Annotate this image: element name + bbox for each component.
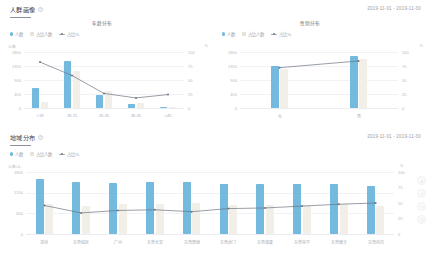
y2-axis-tick-label: 0 — [402, 106, 404, 111]
help-icon[interactable]: ? — [38, 7, 43, 12]
region-distribution-panel: 地域分布 ? 2019-11-01 - 2019-11-30 人数 占比人数 占… — [0, 128, 429, 257]
y2-axis-caption: % — [400, 164, 403, 168]
y-axis-caption: 人数 — [8, 44, 16, 49]
legend-region-chart: 人数 占比人数 占比% — [10, 151, 79, 157]
share-icon[interactable] — [417, 189, 426, 198]
legend-line-icon — [59, 34, 65, 35]
legend-item-ratio-count[interactable]: 占比人数 — [30, 151, 52, 157]
help-circle-icon[interactable] — [417, 215, 426, 224]
date-range-bottom[interactable]: 2019-11-01 - 2019-11-30 — [367, 134, 421, 139]
y2-axis-tick-label: 50 — [398, 201, 402, 206]
legend-label: 占比人数 — [248, 31, 264, 37]
y-axis-tick-label: 1350 — [219, 64, 237, 69]
title-underline — [10, 17, 31, 18]
dashboard-page: 人群画像 ? 2019-11-01 - 2019-11-30 年龄分布 性别分布… — [0, 0, 429, 257]
gender-distribution-chart[interactable]: % 1800135090045001007550250女男 — [214, 44, 429, 126]
legend-dot-icon — [222, 32, 225, 35]
y2-axis-tick-label: 50 — [402, 78, 406, 83]
y-axis-tick-label: 450 — [219, 92, 237, 97]
legend-item-ratio-count[interactable]: 占比人数 — [242, 31, 264, 37]
comment-icon[interactable] — [417, 202, 426, 211]
legend-label: 占比人数 — [36, 31, 52, 37]
x-axis-tick-label: 男 — [357, 113, 361, 119]
percent-line-series — [26, 172, 394, 234]
legend-label: 人数 — [227, 31, 235, 37]
y-axis-tick-label: 1200 — [5, 190, 23, 195]
legend-item-ratio-count[interactable]: 占比人数 — [30, 31, 52, 37]
x-axis-tick-label: 东莞城区 — [73, 239, 89, 245]
axis-baseline — [26, 234, 394, 235]
y2-axis-tick-label: 75 — [398, 185, 402, 190]
x-axis-tick-label: 18-25 — [67, 113, 77, 118]
y2-axis-tick-label: 100 — [398, 170, 405, 175]
x-axis-tick-label: 东莞厚街 — [184, 239, 200, 245]
y2-axis-tick-label: 50 — [188, 78, 192, 83]
legend-bar-icon — [30, 152, 34, 155]
y-axis-tick-label: 1800 — [3, 50, 21, 55]
legend-line-icon — [59, 154, 65, 155]
legend-item-percent[interactable]: 占比% — [59, 31, 79, 37]
gender-chart-title: 性别分布 — [300, 20, 320, 26]
title-underline — [10, 145, 31, 146]
y2-axis-tick-label: 0 — [188, 106, 190, 111]
y-axis-tick-label: 0 — [5, 232, 23, 237]
legend-label: 占比% — [279, 31, 291, 37]
y-axis-tick-label: 1800 — [5, 170, 23, 175]
legend-item-percent[interactable]: 占比% — [271, 31, 291, 37]
legend-label: 人数 — [15, 31, 23, 37]
y-axis-tick-label: 0 — [219, 106, 237, 111]
y2-axis-caption: % — [420, 44, 423, 48]
y2-axis-tick-label: 75 — [188, 64, 192, 69]
y-axis-caption: 人数/人 — [8, 164, 21, 169]
x-axis-tick-label: 26-35 — [99, 113, 109, 118]
x-axis-tick-label: 东莞塘厦 — [257, 239, 273, 245]
y-axis-tick-label: 1800 — [219, 50, 237, 55]
y2-axis-tick-label: 100 — [402, 50, 409, 55]
x-axis-tick-label: 东莞虎门 — [220, 239, 236, 245]
legend-gender-chart: 人数 占比人数 占比% — [222, 31, 291, 37]
age-chart-title: 年龄分布 — [92, 20, 112, 26]
legend-item-count[interactable]: 人数 — [222, 31, 235, 37]
legend-label: 占比% — [67, 31, 79, 37]
axis-baseline — [24, 108, 184, 109]
scroll-top-icon[interactable] — [417, 176, 426, 185]
x-axis-tick-label: 女 — [278, 113, 282, 119]
y-axis-tick-label: 600 — [5, 211, 23, 216]
region-bars-chart[interactable]: 人数/人 % 1800120060001007550250深圳东莞城区广州东莞长… — [0, 162, 429, 257]
y2-axis-tick-label: 0 — [398, 232, 400, 237]
legend-label: 占比人数 — [36, 151, 52, 157]
floating-action-rail[interactable] — [417, 176, 426, 224]
y2-axis-tick-label: 100 — [188, 50, 195, 55]
y2-axis-tick-label: 25 — [402, 92, 406, 97]
legend-item-count[interactable]: 人数 — [10, 31, 23, 37]
legend-age-chart: 人数 占比人数 占比% — [10, 31, 79, 37]
y-axis-tick-label: 450 — [3, 92, 21, 97]
x-axis-tick-label: 东莞长安 — [147, 239, 163, 245]
y-axis-tick-label: 0 — [3, 106, 21, 111]
legend-item-count[interactable]: 人数 — [10, 151, 23, 157]
age-distribution-chart[interactable]: 人数 % 1800135090045001007550250<1818-2526… — [0, 44, 214, 126]
section-title-region: 地域分布 — [10, 133, 35, 142]
y2-axis-caption: % — [205, 44, 208, 48]
x-axis-tick-label: 东莞寮步 — [331, 239, 347, 245]
date-range-top[interactable]: 2019-11-01 - 2019-11-30 — [367, 6, 421, 11]
region-header: 地域分布 ? — [10, 133, 43, 146]
user-profile-panel: 人群画像 ? 2019-11-01 - 2019-11-30 年龄分布 性别分布… — [0, 0, 429, 128]
y2-axis-tick-label: 25 — [398, 216, 402, 221]
y-axis-tick-label: 900 — [3, 78, 21, 83]
percent-line-series — [240, 52, 398, 108]
percent-line-series — [24, 52, 184, 108]
x-axis-tick-label: 东莞凤岗 — [368, 239, 384, 245]
help-icon[interactable]: ? — [38, 135, 43, 140]
y-axis-tick-label: 1350 — [3, 64, 21, 69]
legend-label: 人数 — [15, 151, 23, 157]
y-axis-tick-label: 900 — [219, 78, 237, 83]
axis-baseline — [240, 108, 398, 109]
x-axis-tick-label: <18 — [37, 113, 44, 118]
x-axis-tick-label: >45 — [165, 113, 172, 118]
y2-axis-tick-label: 75 — [402, 64, 406, 69]
legend-line-icon — [271, 34, 277, 35]
legend-item-percent[interactable]: 占比% — [59, 151, 79, 157]
user-profile-header: 人群画像 ? — [10, 5, 43, 18]
x-axis-tick-label: 深圳 — [40, 239, 48, 245]
